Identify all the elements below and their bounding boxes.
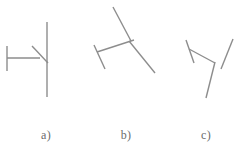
caption-label-c: c) [164,128,248,142]
figure-b-lines [94,7,155,73]
stroke-b-upper-left-diagonal [113,7,131,41]
caption-label-a: a) [4,128,88,142]
stroke-b-left-end-tick [94,45,105,69]
caption-label-b: b) [84,128,168,142]
figure-a-lines [7,22,48,97]
stroke-b-left-arm [97,40,134,52]
figure-c-lines [186,39,233,98]
figure-panel: a) b) c) [0,0,252,150]
caption-row: a) b) c) [0,128,252,142]
stroke-c-lower-arm [206,62,215,98]
stroke-c-right-diagonal [221,39,233,69]
stroke-b-right-arm [129,41,155,73]
stroke-a-diagonal-arm [32,46,48,63]
